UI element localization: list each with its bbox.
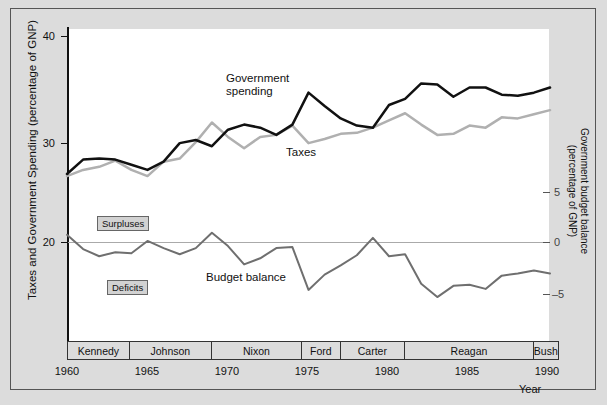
annotation-spending-line1: Government: [226, 72, 289, 85]
x-tick-label-1965: 1965: [127, 365, 167, 377]
annotation-taxes: Taxes: [286, 146, 316, 159]
president-segment-reagan: Reagan: [405, 341, 534, 360]
president-segment-kennedy: Kennedy: [67, 341, 130, 360]
x-tick-label-1985: 1985: [447, 365, 487, 377]
annotation-government-spending: Government spending: [226, 72, 289, 98]
x-tick-label-1970: 1970: [207, 365, 247, 377]
x-tick-label-1980: 1980: [367, 365, 407, 377]
label-surpluses: Surpluses: [97, 216, 149, 231]
x-tick-label-1975: 1975: [287, 365, 327, 377]
x-tick-label-1990: 1990: [527, 365, 567, 377]
chart-page: 40 30 20 5 0 –5 Taxes and Government Spe…: [0, 0, 607, 405]
president-segment-bush: Bush: [534, 341, 559, 360]
president-band: KennedyJohnsonNixonFordCarterReaganBush: [67, 341, 550, 360]
annotation-budget-balance: Budget balance: [206, 271, 286, 284]
president-segment-johnson: Johnson: [130, 341, 212, 360]
x-axis-title: Year: [519, 383, 541, 395]
label-deficits: Deficits: [107, 280, 148, 295]
chart-frame: 40 30 20 5 0 –5 Taxes and Government Spe…: [10, 8, 596, 390]
president-segment-carter: Carter: [341, 341, 405, 360]
series-government-spending: [67, 83, 550, 174]
annotation-spending-line2: spending: [226, 85, 289, 98]
president-segment-ford: Ford: [302, 341, 341, 360]
president-segment-nixon: Nixon: [212, 341, 302, 360]
x-tick-label-1960: 1960: [47, 365, 87, 377]
